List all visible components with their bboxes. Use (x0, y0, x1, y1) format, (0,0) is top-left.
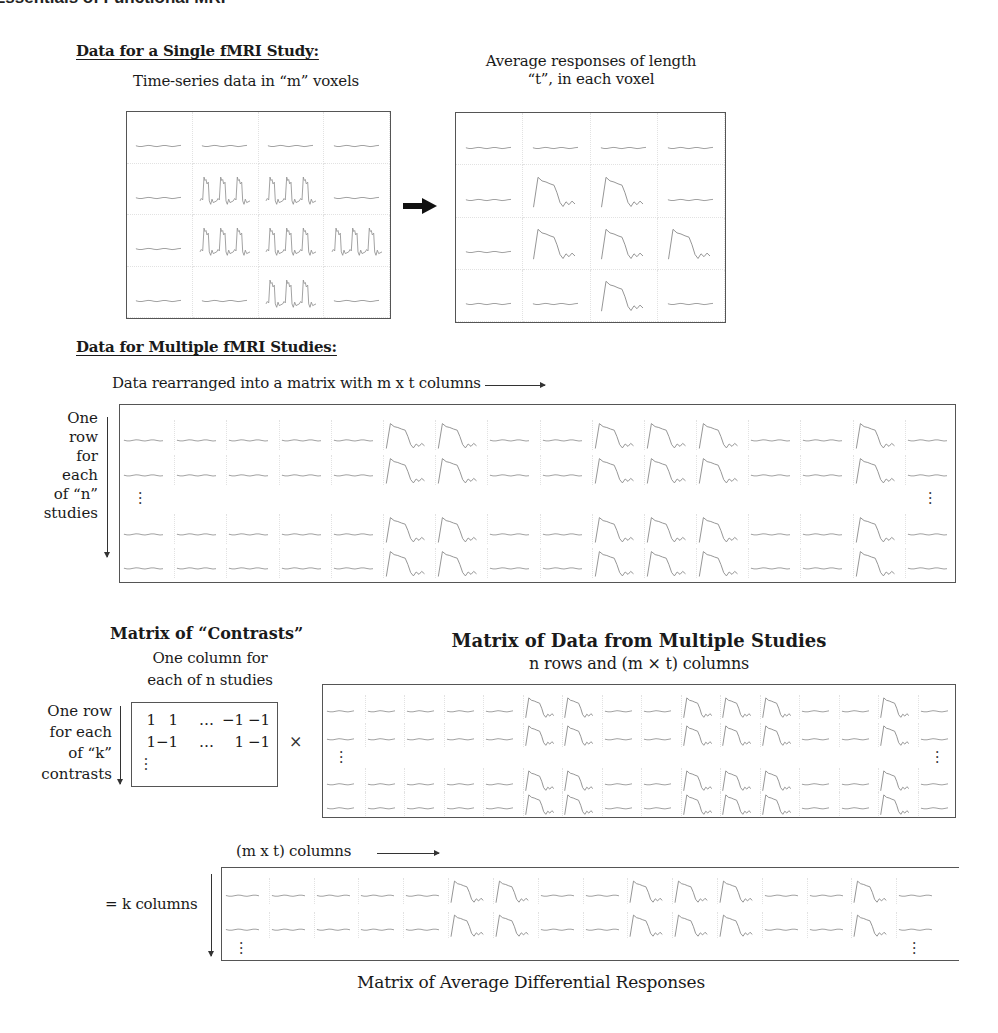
flat-cell (748, 420, 797, 450)
flat-cell (331, 455, 380, 485)
response-cell (383, 420, 432, 450)
inactive-voxel-cell (523, 113, 590, 165)
response-cell (696, 514, 745, 544)
flat-cell (122, 514, 170, 544)
flat-cell (905, 548, 954, 578)
response-cell (853, 455, 902, 485)
response-cell (681, 768, 718, 792)
flat-cell (279, 514, 328, 544)
flat-cell (444, 723, 481, 747)
multiply-symbol: × (289, 732, 302, 751)
result-matrix-body: ······ (222, 868, 959, 960)
flat-cell (331, 514, 380, 544)
flat-cell (602, 768, 639, 792)
k-contrasts-row-label: One rowfor eachof “k”contrasts (24, 701, 112, 785)
inactive-voxel-cell (127, 215, 193, 267)
flat-cell (325, 792, 361, 816)
response-cell (383, 514, 432, 544)
inactive-voxel-cell (259, 112, 325, 164)
flat-cell (602, 792, 639, 816)
active-voxel-cell (591, 218, 658, 270)
flat-cell (762, 912, 804, 938)
flat-cell (404, 792, 441, 816)
average-responses-caption: Average responses of length “t”, in each… (450, 52, 732, 88)
n-studies-row-label: Onerowforeachof “n”studies (40, 409, 98, 523)
time-series-caption: Time-series data in “m” voxels (133, 72, 359, 90)
flat-cell (540, 514, 589, 544)
inactive-voxel-cell (523, 270, 590, 322)
response-cell (644, 548, 693, 578)
inactive-voxel-cell (127, 164, 193, 216)
contrasts-matrix: 11…−1−11−1…1−1··· (131, 702, 278, 787)
active-voxel-cell (193, 215, 259, 267)
flat-cell (403, 912, 445, 938)
contrast-value: 1 (214, 733, 244, 751)
flat-cell (279, 548, 328, 578)
average-responses-caption-line1: Average responses of length (450, 52, 732, 70)
flat-cell (404, 768, 441, 792)
inactive-voxel-cell (324, 112, 390, 164)
data-matrix: ······ (322, 684, 956, 818)
active-voxel-cell (259, 164, 325, 216)
response-cell (717, 912, 759, 938)
flat-cell (487, 514, 536, 544)
flat-cell (279, 420, 328, 450)
flat-cell (483, 695, 520, 719)
response-cell (592, 455, 641, 485)
flat-cell (540, 420, 589, 450)
flat-cell (122, 548, 170, 578)
flat-cell (325, 768, 361, 792)
response-cell (696, 420, 745, 450)
inactive-voxel-cell (658, 113, 725, 165)
flat-cell (365, 695, 402, 719)
response-cell (720, 695, 757, 719)
result-columns-arrow-icon (377, 853, 439, 854)
contrast-value: −1 (156, 733, 178, 751)
row-label-line: of “k” (24, 743, 112, 764)
right-arrow-icon (403, 198, 437, 214)
contrast-value: 1 (142, 711, 156, 729)
vertical-ellipsis: ··· (138, 491, 142, 506)
flat-cell (807, 912, 849, 938)
inactive-voxel-cell (193, 112, 259, 164)
result-matrix: ······ (221, 867, 959, 961)
flat-cell (174, 455, 223, 485)
flat-cell (224, 912, 265, 938)
contrast-value: −1 (214, 711, 244, 729)
flat-cell (279, 455, 328, 485)
result-matrix-title: Matrix of Average Differential Responses (221, 972, 841, 992)
flat-cell (487, 455, 536, 485)
response-cell (720, 768, 757, 792)
flat-cell (122, 420, 170, 450)
response-cell (720, 723, 757, 747)
flat-cell (896, 912, 938, 938)
flat-cell (839, 792, 876, 816)
response-cell (644, 455, 693, 485)
response-cell (672, 878, 714, 904)
response-cell (853, 514, 902, 544)
flat-cell (918, 792, 955, 816)
contrast-row: 1−1…1−1 (142, 731, 277, 753)
response-cell (523, 695, 560, 719)
row-label-line: for each (24, 722, 112, 743)
flat-cell (487, 548, 536, 578)
flat-cell (641, 792, 678, 816)
inactive-voxel-cell (658, 270, 725, 322)
flat-cell (918, 768, 955, 792)
response-cell (717, 878, 759, 904)
contrasts-caption-line2: each of n studies (125, 669, 295, 691)
row-label-line: of “n” (40, 485, 98, 504)
contrasts-title: Matrix of “Contrasts” (110, 624, 303, 643)
data-matrix-subtitle: n rows and (m × t) columns (322, 654, 956, 673)
flat-cell (748, 548, 797, 578)
flat-cell (602, 723, 639, 747)
inactive-voxel-cell (456, 165, 523, 217)
contrast-value: 1 (142, 733, 156, 751)
flat-cell (226, 455, 275, 485)
inactive-voxel-cell (127, 267, 193, 319)
flat-cell (122, 455, 170, 485)
flat-cell (404, 723, 441, 747)
row-label-line: studies (40, 504, 98, 523)
row-label-line: One row (24, 701, 112, 722)
response-cell (878, 792, 915, 816)
